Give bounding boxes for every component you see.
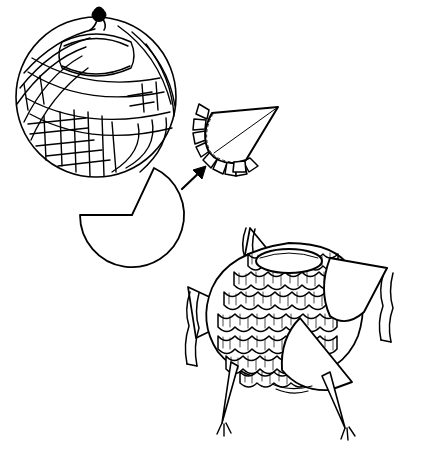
streamer	[187, 364, 197, 366]
streamer	[381, 340, 391, 342]
pinata-top-opening	[256, 249, 322, 273]
cone-point-front-right	[324, 258, 387, 321]
streamer	[389, 273, 393, 342]
streamer	[185, 292, 190, 364]
leg-left-tassel	[217, 423, 231, 436]
leg-left	[222, 362, 238, 423]
illustration-canvas: Pinata construction diagram How to make …	[0, 0, 429, 455]
figure-finished-star-pinata	[0, 0, 429, 455]
leg-right-tassel	[341, 427, 355, 440]
